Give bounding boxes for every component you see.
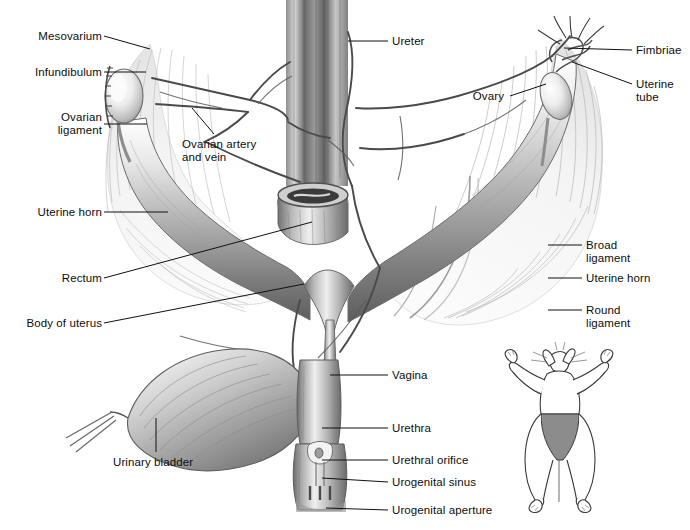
label-urogenital-sinus: Urogenital sinus	[392, 476, 502, 489]
label-rectum: Rectum	[8, 272, 102, 285]
label-urinary-bladder: Urinary bladder	[113, 456, 223, 469]
label-body-of-uterus: Body of uterus	[8, 317, 102, 330]
label-uterine-horn-right: Uterine horn	[586, 272, 678, 285]
label-urogenital-aperture: Urogenital aperture	[392, 504, 522, 517]
label-uterine-tube: Uterine tube	[636, 78, 690, 104]
label-uterine-horn-left: Uterine horn	[8, 206, 102, 219]
label-fimbriae: Fimbriae	[636, 44, 690, 57]
label-ovarian-ligament: Ovarian ligament	[8, 111, 102, 137]
label-ureter: Ureter	[392, 35, 462, 48]
label-round-ligament: Round ligament	[586, 304, 678, 330]
anatomy-figure: MesovariumInfundibulumOvarian ligamentOv…	[0, 0, 690, 530]
label-urethral-orifice: Urethral orifice	[392, 454, 496, 467]
label-ovarian-artery-vein: Ovarian artery and vein	[182, 138, 292, 164]
label-infundibulum: Infundibulum	[8, 66, 102, 79]
label-urethra: Urethra	[392, 422, 464, 435]
label-mesovarium: Mesovarium	[10, 30, 102, 43]
label-ovary: Ovary	[452, 90, 504, 103]
label-broad-ligament: Broad ligament	[586, 239, 678, 265]
label-vagina: Vagina	[392, 369, 464, 382]
cat-orientation-inset	[0, 0, 690, 530]
